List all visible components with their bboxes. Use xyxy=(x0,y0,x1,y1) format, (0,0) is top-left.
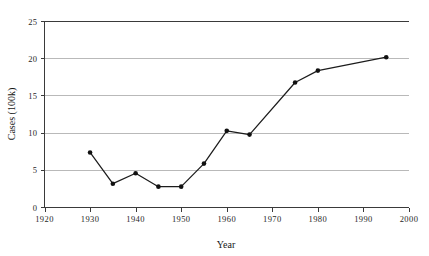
y-tick-label-20: 20 xyxy=(28,54,37,64)
line-chart: 192019301940195019601970198019902000 051… xyxy=(0,0,429,256)
data-point-1935 xyxy=(111,181,116,186)
y-tick-label-10: 10 xyxy=(28,128,37,138)
x-tick-label-1940: 1940 xyxy=(126,214,145,224)
data-point-1995 xyxy=(384,55,389,60)
y-tick-label-15: 15 xyxy=(28,91,37,101)
data-point-1930 xyxy=(88,150,93,155)
y-axis-title: Cases (100k) xyxy=(6,88,18,141)
x-tick-label-1920: 1920 xyxy=(35,214,54,224)
data-point-1950 xyxy=(179,184,184,189)
x-tick-label-1960: 1960 xyxy=(217,214,236,224)
data-point-1960 xyxy=(224,129,229,134)
x-tick-label-1930: 1930 xyxy=(81,214,100,224)
data-point-1975 xyxy=(293,80,298,85)
y-tick-label-0: 0 xyxy=(33,203,38,213)
data-point-1955 xyxy=(202,161,207,166)
x-tick-label-1950: 1950 xyxy=(172,214,191,224)
data-point-1945 xyxy=(156,184,161,189)
x-axis-title: Year xyxy=(217,239,236,250)
x-tick-label-1990: 1990 xyxy=(354,214,373,224)
data-point-1980 xyxy=(316,68,321,73)
x-tick-label-1970: 1970 xyxy=(263,214,282,224)
data-point-1940 xyxy=(133,171,138,176)
y-tick-label-5: 5 xyxy=(33,165,38,175)
x-tick-label-2000: 2000 xyxy=(400,214,419,224)
data-point-1965 xyxy=(247,132,252,137)
y-tick-label-25: 25 xyxy=(28,17,37,27)
x-tick-label-1980: 1980 xyxy=(309,214,328,224)
x-axis-tick-labels: 192019301940195019601970198019902000 xyxy=(35,214,418,224)
